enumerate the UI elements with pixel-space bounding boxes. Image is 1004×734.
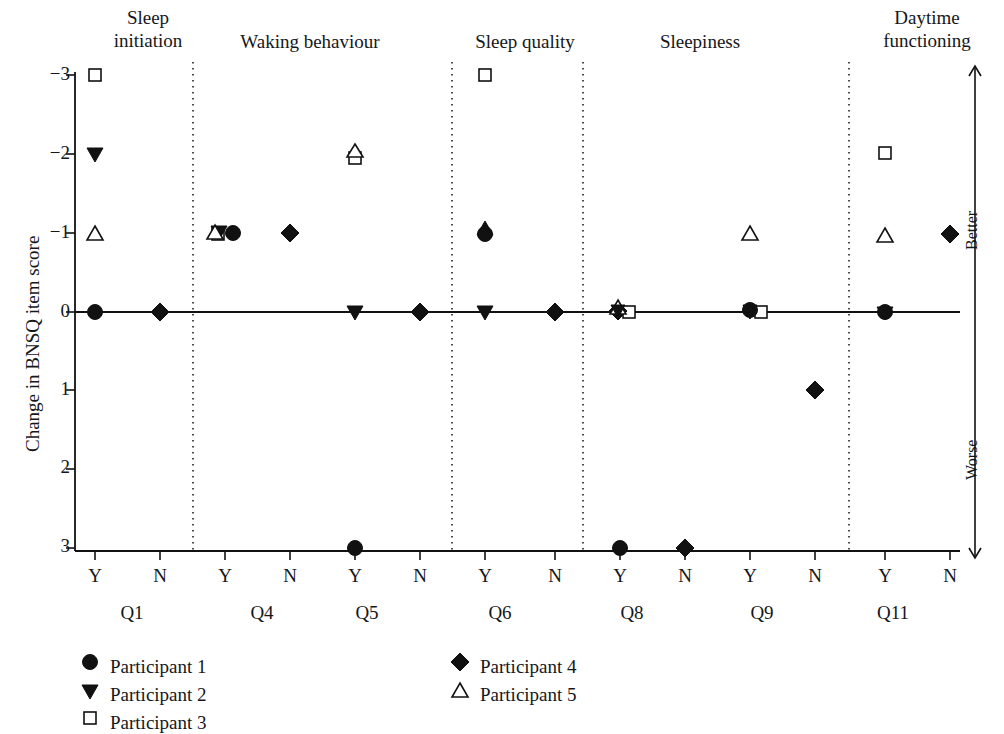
legend-marker-participant-5: [452, 683, 468, 697]
marker-participant-1: [88, 305, 103, 320]
marker-participant-1: [613, 541, 628, 556]
direction-arrow: [969, 66, 981, 558]
marker-participant-5: [87, 226, 103, 240]
legend-marker-participant-3: [84, 712, 96, 724]
marker-participant-3: [879, 147, 891, 159]
marker-participant-4: [941, 225, 959, 243]
marker-participant-4: [806, 381, 824, 399]
marker-participant-5: [477, 221, 493, 235]
marker-participant-2: [87, 148, 103, 162]
marker-participant-4: [281, 224, 299, 242]
marker-participant-4: [546, 303, 564, 321]
legend-marker-participant-4: [451, 653, 469, 671]
marker-participant-5: [742, 226, 758, 240]
legend-marker-participant-2: [82, 685, 98, 699]
marker-participant-4: [411, 303, 429, 321]
marker-participant-5: [877, 228, 893, 242]
legend-marker-participant-1: [83, 655, 98, 670]
x-axis-ticks: [95, 551, 950, 560]
marker-participant-1: [226, 226, 241, 241]
marker-participant-5: [347, 144, 363, 157]
marker-participant-3: [89, 69, 101, 81]
marker-participant-4: [151, 303, 169, 321]
y-axis-ticks: [66, 75, 75, 548]
marker-participant-3: [479, 69, 491, 81]
marker-participant-1: [348, 541, 363, 556]
marker-participant-4: [676, 539, 694, 557]
